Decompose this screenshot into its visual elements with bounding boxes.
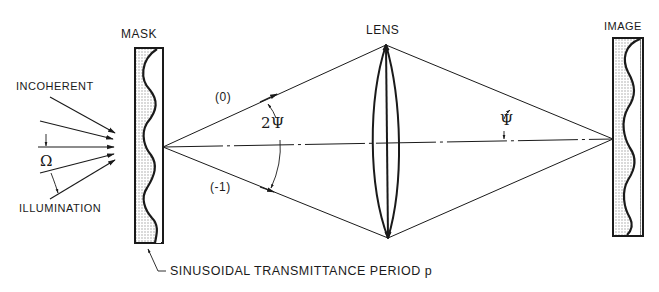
two-psi-label: 2Ψ	[261, 114, 285, 132]
lens	[373, 44, 399, 239]
order-arrows	[260, 94, 277, 192]
image-label: IMAGE	[604, 20, 642, 32]
psi-label: Ψ	[500, 111, 514, 129]
omega-symbol: Ω	[40, 152, 53, 170]
optical-diagram	[0, 0, 659, 292]
lens-label: LENS	[366, 23, 399, 37]
mask	[135, 48, 163, 243]
image-plate	[613, 38, 643, 236]
zero-order-label: (0)	[215, 90, 231, 104]
caption-leader-line	[148, 249, 166, 271]
minus-one-order-label: (-1)	[210, 180, 231, 194]
mask-label: MASK	[121, 27, 157, 41]
illumination-rays	[38, 97, 115, 199]
caption: SINUSOIDAL TRANSMITTANCE PERIOD p	[170, 264, 432, 278]
incoherent-label: INCOHERENT	[16, 80, 94, 92]
illumination-label: ILLUMINATION	[19, 202, 101, 214]
